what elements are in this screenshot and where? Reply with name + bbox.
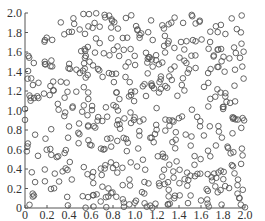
data-point: [66, 124, 72, 130]
data-point: [167, 123, 173, 129]
data-point: [128, 110, 134, 116]
y-tick-label: 0.2: [7, 182, 22, 196]
data-point: [76, 140, 82, 146]
data-point: [62, 110, 68, 116]
data-point: [86, 96, 92, 102]
data-point: [145, 60, 151, 66]
data-point: [215, 29, 221, 35]
data-point: [132, 62, 138, 68]
data-point: [205, 148, 211, 154]
data-point: [171, 169, 177, 175]
x-tick-label: 0.4: [62, 208, 77, 221]
data-point: [227, 56, 233, 62]
data-point: [184, 38, 190, 44]
data-point: [161, 167, 167, 173]
x-tick-label: 0.8: [106, 208, 121, 221]
data-point: [184, 170, 190, 176]
data-point: [213, 143, 219, 149]
data-point: [182, 176, 188, 182]
data-point: [188, 193, 194, 199]
data-point: [122, 116, 128, 122]
data-point: [115, 170, 121, 176]
data-point: [67, 159, 73, 165]
data-point: [182, 47, 188, 53]
data-point: [227, 100, 233, 106]
data-point: [103, 105, 109, 111]
data-point: [206, 104, 212, 110]
data-point: [162, 33, 168, 39]
data-point: [230, 164, 236, 170]
data-point: [79, 109, 85, 115]
x-tick-label: 0: [22, 208, 28, 221]
data-point: [239, 125, 245, 131]
y-tick-label: 2.0: [7, 6, 22, 20]
data-point: [173, 129, 179, 135]
data-point: [32, 132, 38, 138]
data-point: [238, 202, 244, 208]
data-point: [172, 146, 178, 152]
data-point: [49, 58, 55, 64]
data-point: [239, 13, 245, 19]
data-point: [189, 134, 195, 140]
data-point: [98, 199, 104, 205]
data-point: [85, 171, 91, 177]
x-tick-label: 0.6: [84, 208, 99, 221]
data-point: [76, 121, 82, 127]
y-tick-label: 0: [16, 201, 22, 215]
data-point: [99, 172, 105, 178]
data-point: [156, 62, 162, 68]
y-tick-label: 0.4: [7, 162, 22, 176]
data-point: [142, 167, 148, 173]
data-point: [36, 80, 42, 86]
data-point: [166, 187, 172, 193]
data-point: [145, 29, 151, 35]
y-tick-label: 1.6: [7, 45, 22, 59]
data-point: [113, 71, 119, 77]
data-point: [80, 193, 86, 199]
data-point: [48, 126, 54, 132]
data-point: [183, 132, 189, 138]
data-point: [42, 179, 48, 185]
data-point: [174, 159, 180, 165]
data-point: [65, 135, 71, 141]
data-point: [219, 135, 225, 141]
data-point: [95, 66, 101, 72]
data-point: [134, 164, 140, 170]
data-point: [193, 65, 199, 71]
data-point: [159, 174, 165, 180]
x-tick-label: 0.2: [40, 208, 55, 221]
data-point: [229, 162, 235, 168]
data-point: [132, 89, 138, 95]
data-point: [239, 41, 245, 47]
data-point: [41, 91, 47, 97]
data-point: [27, 202, 33, 208]
data-point: [168, 67, 174, 73]
data-point: [185, 183, 191, 189]
data-point: [208, 154, 214, 160]
data-point: [192, 162, 198, 168]
data-point: [180, 20, 186, 26]
data-point: [237, 55, 243, 61]
data-point: [127, 202, 133, 208]
data-point: [189, 107, 195, 113]
data-point: [100, 184, 106, 190]
data-point: [127, 183, 133, 189]
data-point: [180, 76, 186, 82]
data-point: [166, 194, 172, 200]
data-point: [71, 21, 77, 27]
data-point: [213, 94, 219, 100]
data-point: [241, 49, 247, 55]
data-point: [64, 194, 70, 200]
data-point: [233, 50, 239, 56]
data-point: [229, 16, 235, 22]
data-point: [192, 153, 198, 159]
x-tick-label: 1.4: [172, 208, 187, 221]
x-tick-label: 1.2: [150, 208, 165, 221]
data-point: [100, 74, 106, 80]
data-point: [207, 124, 213, 130]
data-point: [26, 55, 32, 61]
data-point: [213, 184, 219, 190]
data-point: [87, 59, 93, 65]
data-point: [120, 182, 126, 188]
data-point: [110, 165, 116, 171]
